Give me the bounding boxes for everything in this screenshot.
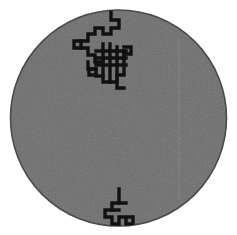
figure-stage [0, 0, 237, 235]
disc-figure [0, 0, 237, 235]
